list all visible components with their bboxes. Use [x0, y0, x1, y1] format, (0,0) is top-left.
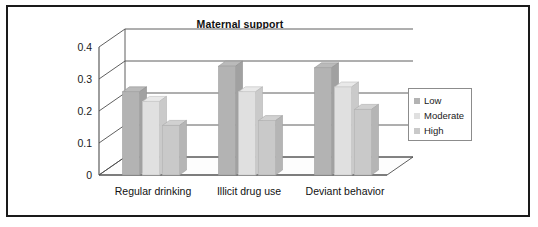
y-tick-label: 0.4: [77, 41, 92, 53]
legend-label-high: High: [424, 126, 444, 136]
bar-3-2: [259, 116, 283, 175]
legend-swatch-low: [414, 98, 420, 104]
legend-item-moderate: Moderate: [414, 108, 471, 123]
x-category-label: Illicit drug use: [217, 185, 281, 197]
chart-legend: Low Moderate High: [408, 88, 472, 141]
y-tick-label: 0.2: [77, 105, 92, 117]
y-tick-label: 0.3: [77, 73, 92, 85]
y-tick-label: 0.1: [77, 137, 92, 149]
legend-item-low: Low: [414, 93, 471, 108]
chart-figure: Maternal support 00.10.20.30.4Regular dr…: [0, 0, 538, 227]
legend-item-high: High: [414, 123, 471, 138]
legend-label-low: Low: [424, 96, 441, 106]
y-tick-label: 0: [86, 169, 92, 181]
legend-swatch-moderate: [414, 113, 420, 119]
x-category-label: Deviant behavior: [306, 185, 385, 197]
legend-label-moderate: Moderate: [424, 111, 464, 121]
x-category-label: Regular drinking: [115, 185, 192, 197]
bar-3-1: [163, 120, 187, 175]
legend-swatch-high: [414, 128, 420, 134]
bar-3-3: [355, 104, 379, 175]
